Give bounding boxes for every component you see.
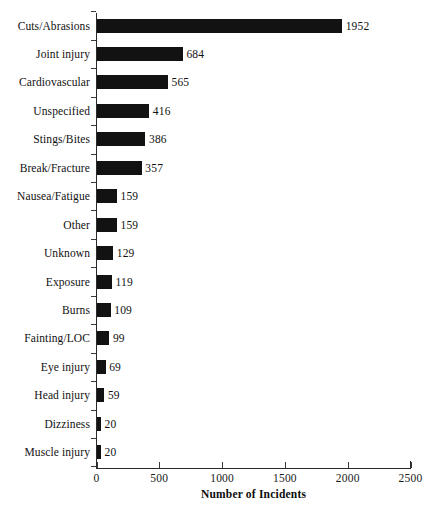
x-axis-tick [159, 462, 160, 468]
bar [97, 417, 101, 431]
bar-value-label: 1952 [346, 20, 370, 32]
bar [97, 161, 142, 175]
y-axis-tick [91, 239, 96, 240]
y-axis-tick [91, 40, 96, 41]
y-axis-tick [91, 182, 96, 183]
y-axis-tick [91, 125, 96, 126]
y-axis-tick [91, 267, 96, 268]
bar-value-label: 159 [120, 190, 138, 202]
x-axis-title: Number of Incidents [96, 488, 411, 500]
bar-value-label: 109 [114, 304, 132, 316]
y-axis-tick [91, 296, 96, 297]
bar-value-label: 99 [113, 332, 125, 344]
category-label: Head injury [34, 389, 90, 401]
category-label: Cuts/Abrasions [18, 20, 90, 32]
bar-value-label: 357 [145, 162, 163, 174]
x-axis-tick [411, 462, 412, 468]
bar [97, 19, 342, 33]
bar-value-label: 20 [105, 446, 117, 458]
x-axis-tick [285, 462, 286, 468]
bar [97, 275, 112, 289]
bar-value-label: 416 [153, 105, 171, 117]
bar [97, 360, 106, 374]
bar [97, 218, 117, 232]
incidents-bar-chart: Number of Incidents 05001000150020002500… [0, 0, 442, 523]
category-label: Joint injury [36, 48, 90, 60]
category-label: Stings/Bites [33, 133, 90, 145]
category-label: Cardiovascular [19, 76, 90, 88]
category-label: Exposure [46, 276, 90, 288]
y-axis-tick [91, 11, 96, 12]
bar [97, 132, 145, 146]
bar [97, 189, 117, 203]
bar [97, 331, 109, 345]
bar [97, 445, 101, 459]
y-axis-tick [91, 68, 96, 69]
y-axis-tick [91, 324, 96, 325]
bar-value-label: 565 [171, 76, 189, 88]
bar [97, 47, 183, 61]
x-axis-tick [97, 462, 98, 468]
category-label: Eye injury [41, 361, 90, 373]
bar-value-label: 159 [120, 219, 138, 231]
bar-value-label: 119 [115, 276, 132, 288]
category-label: Unspecified [33, 105, 90, 117]
bar-value-label: 59 [108, 389, 120, 401]
category-label: Break/Fracture [20, 162, 90, 174]
x-axis-tick-label: 2500 [388, 472, 434, 484]
bar [97, 246, 113, 260]
bar-value-label: 684 [186, 48, 204, 60]
category-label: Muscle injury [25, 446, 91, 458]
y-axis-tick [91, 381, 96, 382]
bar [97, 388, 104, 402]
category-label: Burns [62, 304, 90, 316]
bar [97, 75, 168, 89]
bar [97, 104, 149, 118]
category-label: Nausea/Fatigue [17, 190, 90, 202]
y-axis-tick [91, 410, 96, 411]
plot-area: Number of Incidents 05001000150020002500… [0, 0, 442, 523]
x-axis-tick-label: 1000 [199, 472, 245, 484]
bar-value-label: 129 [117, 247, 135, 259]
category-label: Dizziness [44, 418, 90, 430]
x-axis-line [96, 468, 411, 469]
bar-value-label: 69 [109, 361, 121, 373]
x-axis-tick-label: 0 [74, 472, 120, 484]
bar-value-label: 20 [105, 418, 117, 430]
category-label: Unknown [44, 247, 90, 259]
x-axis-tick [222, 462, 223, 468]
category-label: Fainting/LOC [24, 332, 90, 344]
y-axis-tick [91, 466, 96, 467]
y-axis-tick [91, 438, 96, 439]
bar [97, 303, 111, 317]
y-axis-tick [91, 210, 96, 211]
y-axis-tick [91, 97, 96, 98]
x-axis-tick-label: 1500 [262, 472, 308, 484]
y-axis-tick [91, 154, 96, 155]
category-label: Other [63, 219, 90, 231]
x-axis-tick-label: 500 [136, 472, 182, 484]
x-axis-tick-label: 2000 [325, 472, 371, 484]
y-axis-tick [91, 353, 96, 354]
x-axis-tick [348, 462, 349, 468]
bar-value-label: 386 [149, 133, 167, 145]
